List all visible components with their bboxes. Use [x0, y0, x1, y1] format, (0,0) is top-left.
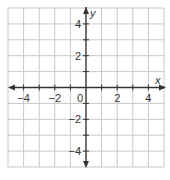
x-axis-left-arrow-icon — [8, 85, 15, 91]
x-tick-label: −2 — [49, 92, 62, 104]
y-tick-label: 4 — [75, 18, 81, 30]
origin-label: 0 — [77, 92, 83, 104]
y-tick-label: −2 — [68, 113, 81, 125]
x-tick-label: −4 — [17, 92, 30, 104]
axes — [8, 7, 166, 168]
coordinate-plane: −4−22442−2−4 x y 0 — [0, 0, 170, 180]
y-tick-label: 2 — [75, 50, 81, 62]
x-tick-label: 2 — [114, 92, 120, 104]
x-tick-label: 4 — [145, 92, 151, 104]
y-tick-label: −4 — [68, 145, 81, 157]
x-axis-label: x — [154, 74, 161, 86]
y-axis-label: y — [89, 7, 97, 19]
